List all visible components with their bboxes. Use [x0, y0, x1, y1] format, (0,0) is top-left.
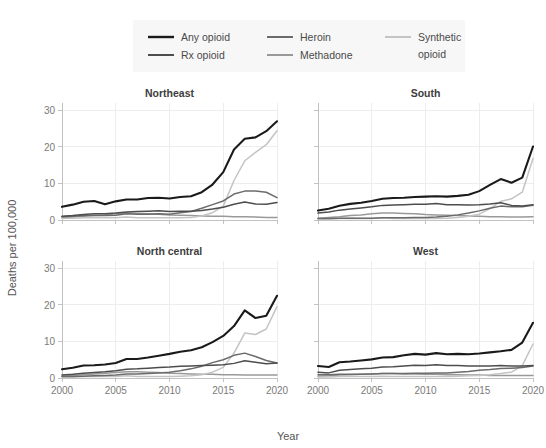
- legend-label-rx-opioid: Rx opioid: [181, 49, 225, 61]
- x-tick-label: 2020: [266, 385, 289, 396]
- panel-title-south: South: [411, 87, 441, 99]
- y-tick-label: 30: [44, 263, 56, 274]
- x-tick-label: 2015: [212, 385, 235, 396]
- y-axis-title: Deaths per 100,000: [6, 200, 18, 297]
- legend-label-synthetic-opioid: Synthetic: [418, 31, 461, 43]
- y-tick-label: 0: [49, 215, 55, 226]
- x-tick-label: 2000: [51, 385, 74, 396]
- legend-background: [133, 20, 465, 72]
- legend-label-synthetic-opioid-line2: opioid: [418, 48, 446, 60]
- legend-label-heroin: Heroin: [300, 31, 331, 43]
- y-tick-label: 20: [44, 142, 56, 153]
- chart-figure: Any opioidRx opioidHeroinMethadoneSynthe…: [0, 0, 546, 448]
- y-tick-label: 20: [44, 300, 56, 311]
- legend-label-methadone: Methadone: [300, 49, 353, 61]
- y-tick-label: 10: [44, 178, 56, 189]
- x-tick-label: 2005: [361, 385, 384, 396]
- x-axis-title: Year: [277, 430, 300, 442]
- chart-legend: Any opioidRx opioidHeroinMethadoneSynthe…: [133, 20, 465, 72]
- panel-title-northeast: Northeast: [145, 87, 195, 99]
- y-tick-label: 10: [44, 336, 56, 347]
- x-tick-label: 2010: [158, 385, 181, 396]
- x-tick-label: 2000: [307, 385, 330, 396]
- legend-label-any-opioid: Any opioid: [181, 31, 230, 43]
- x-tick-label: 2010: [414, 385, 437, 396]
- y-tick-label: 30: [44, 105, 56, 116]
- faceted-line-chart-svg: Any opioidRx opioidHeroinMethadoneSynthe…: [0, 0, 546, 448]
- y-tick-label: 0: [49, 373, 55, 384]
- x-tick-label: 2015: [468, 385, 491, 396]
- panel-title-west: West: [413, 245, 438, 257]
- x-tick-label: 2020: [522, 385, 545, 396]
- panel-title-north-central: North central: [137, 245, 202, 257]
- x-tick-label: 2005: [105, 385, 128, 396]
